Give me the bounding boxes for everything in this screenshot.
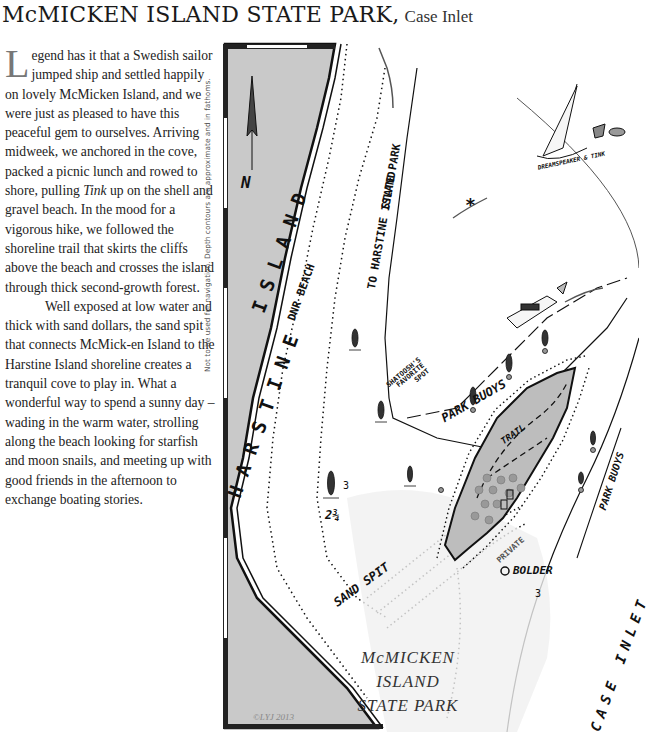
- story-paragraph-1: Legend has it that a Swedish sailor jump…: [5, 46, 217, 297]
- label-star: *: [465, 194, 476, 215]
- label-depth-3-a: 3: [343, 480, 349, 491]
- label-depth-2-3-4: 2¾: [325, 508, 339, 522]
- label-depth-3-b: 3: [535, 588, 541, 599]
- story-paragraph-2: Well exposed at low water and thick with…: [5, 297, 217, 509]
- title-subtitle: Case Inlet: [405, 7, 473, 26]
- story-text: Legend has it that a Swedish sailor jump…: [5, 46, 217, 509]
- park-name-label: McMICKEN ISLAND STATE PARK: [343, 646, 473, 718]
- compass-n: N: [241, 173, 251, 192]
- sailboat-dreamspeaker: [537, 84, 625, 159]
- drop-cap: L: [5, 48, 29, 80]
- label-bolder: BOLDER: [513, 564, 553, 577]
- boat-name-tink: Tink: [83, 183, 106, 198]
- copyright: ©LYJ 2013: [253, 712, 294, 722]
- map: H A R S T I N E I S L A N D N DNR BEACH …: [217, 38, 639, 732]
- title-main: McMICKEN ISLAND STATE PARK,: [2, 2, 400, 27]
- harstine-island-land: [225, 44, 377, 728]
- motorboat-shatoosh: [507, 282, 567, 328]
- page-title: McMICKEN ISLAND STATE PARK, Case Inlet: [2, 2, 473, 27]
- navigation-disclaimer: Not to be used for navigation. Depth con…: [203, 78, 212, 372]
